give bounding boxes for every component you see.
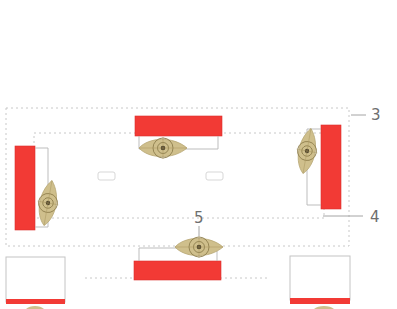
callout-3: 3 [351, 106, 381, 124]
bottom-right-box-outline [290, 256, 350, 300]
right-marker-icon [293, 127, 322, 176]
small-fixture-right [206, 172, 223, 180]
callout-5: 5 [194, 209, 204, 236]
layout-diagram: 3 4 5 [0, 0, 397, 309]
bottom-right-box-bar [290, 298, 350, 304]
bottom-unit [134, 236, 223, 280]
callout-5-label: 5 [194, 209, 204, 227]
bottom-left-box-bar [6, 299, 65, 304]
bottom-bar [134, 261, 221, 280]
right-bar [321, 125, 341, 209]
left-bar [15, 146, 35, 230]
small-fixture-left [98, 172, 115, 180]
left-marker-icon [34, 179, 63, 228]
left-unit [15, 146, 62, 230]
top-unit [135, 116, 222, 159]
callout-3-label: 3 [371, 106, 381, 124]
bottom-right-box [290, 256, 350, 309]
callout-4: 4 [323, 208, 380, 226]
right-unit [293, 125, 341, 209]
bottom-left-box-outline [6, 257, 65, 302]
bottom-marker-icon [175, 236, 223, 258]
top-marker-icon [139, 137, 187, 159]
top-bar [135, 116, 222, 136]
callout-4-label: 4 [370, 208, 380, 226]
bottom-left-box [6, 257, 65, 309]
